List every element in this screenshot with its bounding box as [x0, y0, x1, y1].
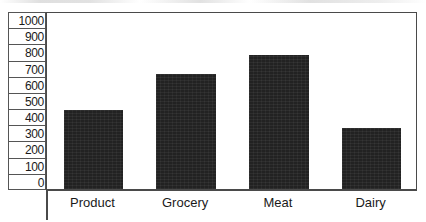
y-axis-tick-label: 100: [9, 158, 47, 174]
bar-chart: 10009008007006005004003002001000 Product…: [0, 0, 426, 222]
x-axis-category-label: Grocery: [139, 192, 232, 214]
y-axis-tick-label: 200: [9, 141, 47, 157]
scan-edge-artifact: [0, 0, 426, 3]
y-axis-tick-label: 400: [9, 109, 47, 125]
y-axis-tick-label: 1000: [9, 12, 47, 28]
bar: [64, 110, 123, 189]
y-axis-tick-labels: 10009008007006005004003002001000: [8, 12, 46, 190]
x-axis-category-label: Dairy: [324, 192, 417, 214]
y-axis-tick-label: 300: [9, 125, 47, 141]
bar: [342, 128, 401, 189]
x-axis-category-labels: ProductGroceryMeatDairy: [46, 192, 417, 218]
y-axis-tick-label: 700: [9, 61, 47, 77]
bar: [249, 55, 308, 189]
y-axis-tick-label: 0: [9, 174, 47, 190]
y-axis-tick-label: 600: [9, 77, 47, 93]
y-axis-tick-label: 500: [9, 93, 47, 109]
x-axis-category-label: Meat: [232, 192, 325, 214]
bar-series: [47, 13, 416, 189]
x-axis-baseline: [46, 189, 417, 191]
x-axis-category-label: Product: [46, 192, 139, 214]
bar: [156, 74, 215, 189]
y-axis-tick-label: 800: [9, 44, 47, 60]
y-axis-tick-label: 900: [9, 28, 47, 44]
plot-area: [46, 12, 417, 190]
